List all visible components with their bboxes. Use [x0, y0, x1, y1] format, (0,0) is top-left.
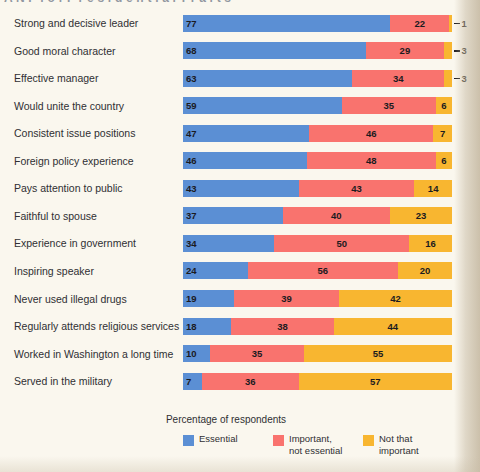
category-label: Strong and decisive leader [14, 12, 178, 34]
bar-value-label: 16 [409, 235, 452, 252]
bar-value-label: 35 [342, 97, 436, 114]
chart-page: A N P f o r P r e s i d e n t i a l T r … [0, 0, 480, 472]
bar-value-label: 46 [186, 152, 197, 169]
bar-value-label-external: 3 [454, 42, 467, 59]
bar-track: 434314 [183, 180, 452, 197]
bar-value-label: 34 [352, 70, 443, 87]
bar-segment-not-that-important [449, 15, 452, 32]
bar-segment-essential: 19 [183, 290, 234, 307]
chart-row: Regularly attends religious services1838… [0, 315, 480, 337]
bar-value-label: 43 [186, 180, 197, 197]
bar-track: 345016 [183, 235, 452, 252]
bar-segment-essential: 59 [183, 97, 342, 114]
bar-segment-not-that-important: 6 [436, 152, 452, 169]
category-label: Experience in government [14, 232, 178, 254]
chart-row: Strong and decisive leader77221 [0, 12, 480, 34]
bar-segment-not-that-important: 55 [304, 345, 452, 362]
bar-value-label-external: 3 [454, 70, 467, 87]
bar-value-label: 24 [186, 262, 197, 279]
bar-segment-important: 35 [342, 97, 436, 114]
legend-swatch-essential [183, 435, 194, 446]
bar-value-label: 48 [307, 152, 436, 169]
chart-row: Worked in Washington a long time103555 [0, 343, 480, 365]
x-axis-caption: Percentage of respondents [0, 414, 452, 425]
bar-segment-not-that-important: 7 [433, 125, 452, 142]
legend-label-line1: Not that [379, 433, 412, 444]
category-label: Effective manager [14, 67, 178, 89]
bar-value-label: 59 [186, 97, 197, 114]
category-label: Would unite the country [14, 95, 178, 117]
bar-value-label: 18 [186, 318, 197, 335]
bar-value-label: 3 [462, 45, 467, 56]
bar-segment-essential: 63 [183, 70, 352, 87]
bar-track: 183844 [183, 318, 452, 335]
bar-value-label: 77 [186, 15, 197, 32]
bar-segment-not-that-important: 16 [409, 235, 452, 252]
leader-line [454, 78, 460, 80]
chart-row: Good moral character68293 [0, 40, 480, 62]
bar-value-label: 42 [339, 290, 452, 307]
bar-segment-important: 56 [248, 262, 399, 279]
category-label: Good moral character [14, 40, 178, 62]
bar-segment-important: 36 [202, 373, 299, 390]
bar-segment-not-that-important: 20 [398, 262, 452, 279]
bar-value-label: 56 [248, 262, 399, 279]
legend-label: Essential [199, 433, 238, 445]
chart-row: Effective manager63343 [0, 67, 480, 89]
bar-value-label: 40 [283, 207, 391, 224]
bar-value-label: 36 [202, 373, 299, 390]
bar-value-label: 55 [304, 345, 452, 362]
bar-segment-essential: 46 [183, 152, 307, 169]
category-label: Faithful to spouse [14, 205, 178, 227]
bar-segment-not-that-important: 14 [414, 180, 452, 197]
bar-segment-important: 22 [390, 15, 449, 32]
bar-segment-essential: 18 [183, 318, 231, 335]
bar-value-label: 44 [334, 318, 452, 335]
bar-track: 46486 [183, 152, 452, 169]
chart-row: Pays attention to public434314 [0, 177, 480, 199]
bar-segment-not-that-important: 57 [299, 373, 452, 390]
chart-row: Foreign policy experience46486 [0, 150, 480, 172]
bar-value-label: 6 [436, 152, 452, 169]
bar-value-label-external: 1 [454, 15, 467, 32]
bar-value-label: 19 [186, 290, 197, 307]
bar-segment-essential: 37 [183, 207, 283, 224]
bar-value-label: 47 [186, 125, 197, 142]
chart-row: Consistent issue positions47467 [0, 122, 480, 144]
legend-label-line1: Essential [199, 433, 238, 444]
bar-track: 374023 [183, 207, 452, 224]
bar-value-label: 3 [462, 73, 467, 84]
bar-segment-not-that-important [444, 42, 452, 59]
bar-value-label: 10 [186, 345, 197, 362]
bar-segment-essential: 24 [183, 262, 248, 279]
bar-segment-important: 50 [274, 235, 409, 252]
legend-label-line2: not essential [289, 445, 342, 457]
bar-segment-not-that-important [444, 70, 452, 87]
page-title-clipped: A N P f o r P r e s i d e n t i a l T r … [0, 0, 480, 7]
leader-line [454, 50, 460, 52]
bar-track: 103555 [183, 345, 452, 362]
category-label: Never used illegal drugs [14, 288, 178, 310]
category-label: Regularly attends religious services [14, 315, 178, 337]
bar-track: 47467 [183, 125, 452, 142]
chart-legend: EssentialImportant,not essentialNot that… [0, 433, 470, 469]
bar-value-label: 23 [390, 207, 452, 224]
bar-track: 73657 [183, 373, 452, 390]
bar-segment-important: 35 [210, 345, 304, 362]
chart-row: Never used illegal drugs193942 [0, 288, 480, 310]
category-label: Foreign policy experience [14, 150, 178, 172]
bar-value-label: 68 [186, 42, 197, 59]
page-title-text: A N P f o r P r e s i d e n t i a l T r … [4, 0, 231, 5]
bar-segment-important: 38 [231, 318, 333, 335]
bar-value-label: 34 [186, 235, 197, 252]
bar-value-label: 14 [414, 180, 452, 197]
chart-row: Inspiring speaker245620 [0, 260, 480, 282]
bar-segment-important: 29 [366, 42, 444, 59]
bar-value-label: 46 [309, 125, 433, 142]
bar-track: 6334 [183, 70, 452, 87]
bar-value-label: 7 [186, 373, 191, 390]
category-label: Consistent issue positions [14, 122, 178, 144]
chart-row: Would unite the country59356 [0, 95, 480, 117]
bar-value-label: 50 [274, 235, 409, 252]
legend-swatch-notthat [363, 435, 374, 446]
